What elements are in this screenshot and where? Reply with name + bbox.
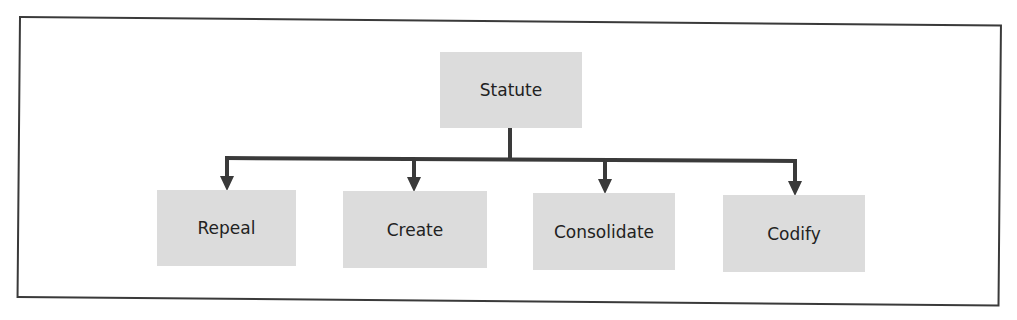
- arrow-head-codify-icon: [788, 181, 802, 196]
- node-create: Create: [343, 191, 487, 268]
- node-codify: Codify: [723, 195, 865, 272]
- arrow-head-consolidate-icon: [598, 179, 612, 194]
- node-statute: Statute: [440, 52, 582, 128]
- connector-lines: [0, 0, 1017, 320]
- node-consolidate: Consolidate: [533, 193, 675, 270]
- node-repeal: Repeal: [157, 190, 296, 266]
- node-label: Repeal: [198, 218, 256, 238]
- node-label: Create: [387, 220, 444, 240]
- arrow-head-create-icon: [407, 177, 421, 192]
- branch-bar-line: [225, 158, 797, 161]
- node-label: Consolidate: [554, 222, 654, 242]
- arrow-head-repeal-icon: [220, 176, 234, 191]
- node-label: Codify: [767, 224, 821, 244]
- node-label: Statute: [480, 80, 542, 100]
